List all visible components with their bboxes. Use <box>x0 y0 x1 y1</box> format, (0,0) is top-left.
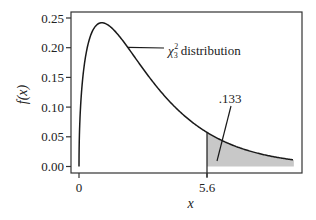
plot-area: 0.000.050.100.150.200.2505.6xf(x)χ23dist… <box>15 11 302 212</box>
plot-frame <box>71 12 302 173</box>
distribution-annotation: χ23distribution <box>166 42 241 60</box>
y-axis-label: f(x) <box>15 84 31 104</box>
area-value-label: .133 <box>219 91 242 106</box>
y-tick-label: 0.15 <box>41 70 64 85</box>
x-tick-label: 0 <box>76 180 83 195</box>
y-tick-label: 0.00 <box>41 159 64 174</box>
y-tick-label: 0.25 <box>41 11 64 26</box>
x-tick-label: 5.6 <box>199 180 216 195</box>
x-axis-label: x <box>186 196 194 211</box>
y-tick-label: 0.20 <box>41 40 64 55</box>
annotation-leader-line <box>128 47 164 48</box>
y-tick-label: 0.05 <box>41 129 64 144</box>
chi-square-chart: 0.000.050.100.150.200.2505.6xf(x)χ23dist… <box>0 0 316 220</box>
y-tick-label: 0.10 <box>41 100 64 115</box>
